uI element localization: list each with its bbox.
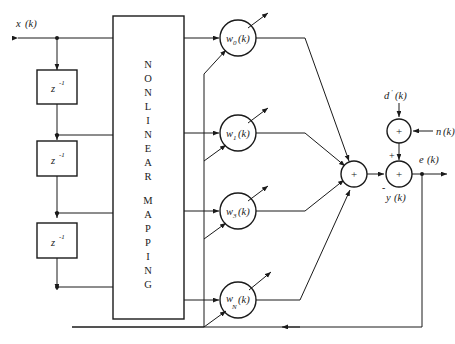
weight-0-output-line [256,38,349,161]
weight-1-arg: (k) [238,128,250,140]
output-label-arg: (k) [394,192,406,204]
weight-0-update-arrow [248,13,268,28]
weight-3-update-arrow [248,186,268,201]
weight-adaptation-inputs [204,50,226,327]
noise-label: n (k) [436,126,455,138]
delay-3-exponent: -1 [59,233,65,241]
error-sum-positive-sign: + [389,150,395,161]
weight-0-arg: (k) [238,33,250,45]
output-sum-sign: + [351,168,357,180]
weight-3-adapt-line [204,223,226,239]
mapping-letter: O [144,73,152,84]
noise-label-base: n [436,126,441,137]
delay-block-2: z -1 [37,141,77,176]
weight-3-subscript: 3 [232,212,237,220]
weight-3-base: w [226,206,233,217]
weight-N-output-line [256,190,350,300]
desired-label-prime: ′ [391,88,393,96]
desired-label: d ′ (k) [384,88,407,102]
input-label-base: x [15,18,21,29]
mapping-letter: A [144,209,152,220]
nonlinear-mapping-block: N O N L I N E A R M A P P I N G [113,16,184,319]
weight-node-0: w 0 (k) [220,13,268,56]
mapping-letter: I [146,251,150,262]
weight-1-update-arrow [248,108,268,123]
weight-N-adapt-line [204,311,226,327]
mapping-letter: R [144,171,151,182]
mapping-letter: L [145,101,151,112]
weight-N-arg: (k) [238,294,250,306]
delay-1-base: z [50,83,55,94]
output-label-base: y [385,192,391,203]
error-label: e (k) [419,154,439,166]
mapping-letter: N [144,59,152,70]
delay-block-1: z -1 [37,70,77,104]
input-label: x (k) [15,18,37,30]
weight-0-subscript: 0 [233,39,237,47]
weight-1-output-line [256,133,345,166]
adaptive-filter-diagram: z -1 z -1 z -1 N O N L I N E A R M A P P [0,0,455,344]
desired-label-base: d [384,90,390,101]
weight-0-adapt-line [204,50,226,74]
mapping-letter: E [145,143,151,154]
mapping-letter: A [144,157,152,168]
mapping-letter: M [143,195,153,206]
desired-label-arg: (k) [395,90,407,102]
weight-1-adapt-line [204,145,226,161]
delay-3-base: z [50,237,55,248]
mapping-letter: N [144,87,152,98]
mapping-letter: I [146,115,150,126]
weight-1-base: w [226,128,233,139]
weight-node-N: w N (k) [220,272,271,318]
weighted-sum-lines [256,38,350,300]
mapping-letter: P [145,237,151,248]
input-signal-path [18,36,113,40]
mapping-output-lines [184,38,219,300]
output-label: y (k) [385,192,406,204]
error-label-arg: (k) [427,154,439,166]
delay-2-base: z [50,155,55,166]
weight-0-base: w [226,33,233,44]
weight-node-3: w 3 (k) [220,186,268,229]
mapping-letter: N [144,129,152,140]
weight-3-arg: (k) [238,206,250,218]
weight-node-1: w 1 (k) [220,108,268,151]
weight-1-subscript: 1 [233,134,237,142]
weight-N-subscript: N [231,303,237,311]
noise-sum-sign: + [396,125,402,137]
mapping-letter: P [145,223,151,234]
delay-block-3: z -1 [37,223,77,258]
error-sum-negative-sign: - [382,182,385,193]
noise-label-arg: (k) [443,126,455,138]
delay-1-exponent: -1 [59,79,65,87]
weight-N-update-arrow [249,272,271,290]
mapping-letter: G [144,279,152,290]
mapping-letter: N [144,265,152,276]
input-label-arg: (k) [25,18,37,30]
output-summing-junction: + [341,161,384,187]
error-sum-center-sign: + [396,168,402,180]
delay-2-exponent: -1 [59,151,65,159]
weight-3-output-line [256,180,344,211]
error-label-base: e [419,154,424,165]
